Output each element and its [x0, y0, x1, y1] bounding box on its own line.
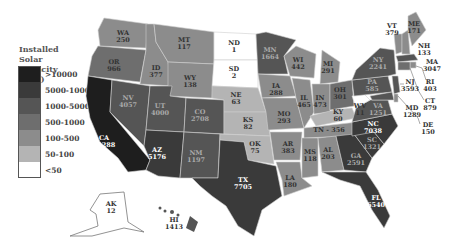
label-TN: TN - 356 [313, 126, 345, 134]
label-MS: MS118 [303, 148, 317, 163]
state-VT[interactable] [394, 34, 402, 54]
label-NJ: NJ3593 [401, 78, 420, 93]
label-MA: MA3047 [423, 58, 441, 73]
label-DE: DE150 [421, 121, 435, 136]
label-AK: AK12 [105, 200, 117, 215]
label-MI: MI291 [321, 60, 335, 75]
state-DE[interactable] [394, 94, 398, 102]
label-NM: NM1197 [187, 149, 205, 164]
label-OH: OH301 [333, 86, 347, 101]
state-CT[interactable] [398, 62, 410, 70]
state-MA[interactable] [396, 54, 418, 62]
label-VT: VT379 [385, 22, 399, 37]
label-WA: WA250 [116, 29, 130, 44]
us-map: WA250 OR966 CA31288 ID377 NV4057 MT117 W… [0, 0, 453, 249]
label-WI: WI442 [291, 56, 305, 71]
label-WY: WY138 [183, 74, 197, 89]
label-MT: MT117 [177, 36, 191, 51]
label-MO: MO293 [277, 110, 291, 125]
label-AR: AR383 [281, 140, 295, 155]
state-RI[interactable] [410, 62, 416, 68]
state-NJ[interactable] [392, 76, 400, 94]
label-NH: NH133 [417, 42, 431, 57]
label-HI: HI1413 [165, 216, 184, 231]
label-CT: CT879 [423, 97, 437, 112]
label-KY: KY60 [333, 108, 343, 123]
label-KS: KS82 [243, 116, 254, 131]
label-OK: OK75 [249, 140, 261, 155]
label-ME: ME171 [407, 20, 421, 35]
label-NE: NE63 [231, 91, 242, 106]
label-RI: RI403 [423, 78, 437, 93]
label-OR: OR966 [107, 58, 121, 73]
